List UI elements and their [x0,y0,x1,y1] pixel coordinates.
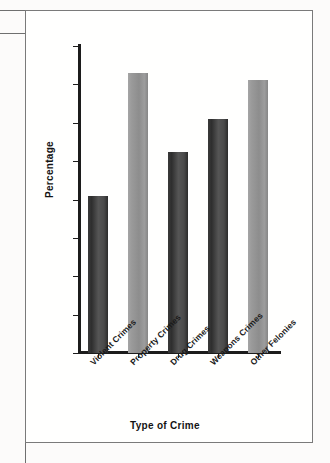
y-axis-tick-row: 40 [0,46,78,47]
x-axis-tick-mark [178,354,179,358]
x-axis-tick-mark [218,354,219,358]
y-axis-tick-row: 15 [0,238,78,239]
scanned-page: 0510152025303540 Violent CrimesProperty … [0,0,330,463]
y-axis-tick-row: 5 [0,315,78,316]
y-axis-tick-row: 20 [0,200,78,201]
y-axis-title: Percentage [44,141,55,198]
x-axis-title: Type of Crime [0,420,330,431]
bar-weapons-crimes [208,119,228,353]
y-axis-tick-row: 30 [0,123,78,124]
y-axis-tick-row: 25 [0,161,78,162]
x-axis-tick-mark [98,354,99,358]
y-axis-tick-row: 35 [0,84,78,85]
x-axis-tick-mark [258,354,259,358]
y-axis-tick-row: 10 [0,276,78,277]
bar-violent-crimes [88,196,108,353]
bars-container [78,46,278,353]
bar-chart: 0510152025303540 Violent CrimesProperty … [0,0,330,463]
bar-property-crimes [128,73,148,353]
x-axis-tick-mark [138,354,139,358]
y-axis-tick-row: 0 [0,353,78,354]
